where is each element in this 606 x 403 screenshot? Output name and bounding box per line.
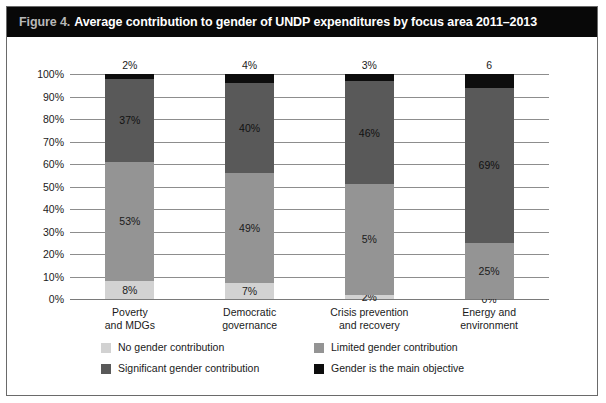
stacked-bar[interactable]: 8%53%37%2% xyxy=(105,74,154,299)
legend-swatch-icon xyxy=(314,364,324,374)
bar-segment[interactable]: 69% xyxy=(465,88,514,243)
y-axis-tick-label: 60% xyxy=(43,159,64,169)
bar-segment-label: 46% xyxy=(359,128,380,138)
y-axis-tick-label: 70% xyxy=(43,137,64,147)
bar-segment[interactable]: 2% xyxy=(345,295,394,300)
y-axis-tick-label: 10% xyxy=(43,272,64,282)
figure-number: Figure 4. xyxy=(19,15,70,29)
y-axis-tick-label: 50% xyxy=(43,182,64,192)
bar-segment[interactable] xyxy=(225,74,274,83)
bar-segment[interactable] xyxy=(345,74,394,81)
bar-segment[interactable]: 53% xyxy=(105,162,154,281)
bar-segment-label: 25% xyxy=(479,266,500,276)
bar-total-label: 3% xyxy=(345,60,394,70)
legend-item[interactable]: No gender contribution xyxy=(101,342,314,353)
legend-label: Limited gender contribution xyxy=(331,342,458,353)
bar-segment[interactable]: 5% xyxy=(345,184,394,294)
bar-group[interactable]: 0%25%69%6 xyxy=(465,74,514,299)
bar-group[interactable]: 2%5%46%3% xyxy=(345,74,394,299)
bar-total-label: 6 xyxy=(465,60,514,70)
y-axis-tick-label: 80% xyxy=(43,114,64,124)
figure-title-bar: Figure 4. Average contribution to gender… xyxy=(7,7,597,37)
legend-swatch-icon xyxy=(101,343,111,353)
bar-segment-label: 53% xyxy=(119,216,140,226)
bar-group[interactable]: 7%49%40%4% xyxy=(225,74,274,299)
bar-segment-label: 40% xyxy=(239,123,260,133)
bar-segment[interactable]: 7% xyxy=(225,283,274,299)
bar-segment[interactable]: 40% xyxy=(225,83,274,173)
y-axis-tick-label: 100% xyxy=(37,69,64,79)
y-axis-tick-label: 40% xyxy=(43,204,64,214)
bar-total-label: 2% xyxy=(105,60,154,70)
legend-item[interactable]: Gender is the main objective xyxy=(314,363,464,374)
chart-plot-area: 8%53%37%2%7%49%40%4%2%5%46%3%0%25%69%6 xyxy=(70,74,549,299)
chart-legend: No gender contributionLimited gender con… xyxy=(101,337,541,379)
bar-segment-label: 37% xyxy=(119,115,140,125)
bar-segment-label: 8% xyxy=(122,285,137,295)
y-axis-tick-label: 30% xyxy=(43,227,64,237)
bar-group[interactable]: 8%53%37%2% xyxy=(105,74,154,299)
y-axis-labels: 100%90%80%70%60%50%40%30%20%10%0% xyxy=(7,74,64,299)
figure-title: Average contribution to gender of UNDP e… xyxy=(74,15,537,29)
bar-segment-label: 5% xyxy=(362,234,377,244)
bar-segment[interactable]: 8% xyxy=(105,281,154,299)
bar-total-label: 4% xyxy=(225,60,274,70)
y-axis-tick-label: 20% xyxy=(43,249,64,259)
stacked-bar[interactable]: 2%5%46%3% xyxy=(345,74,394,299)
bar-segment[interactable] xyxy=(465,74,514,88)
legend-label: Significant gender contribution xyxy=(118,363,259,374)
legend-swatch-icon xyxy=(101,364,111,374)
stacked-bar[interactable]: 0%25%69%6 xyxy=(465,74,514,299)
bar-segment-label: 69% xyxy=(479,160,500,170)
bar-segment[interactable]: 46% xyxy=(345,81,394,185)
bar-segment-label: 7% xyxy=(242,286,257,296)
legend-swatch-icon xyxy=(314,343,324,353)
category-label-line: environment xyxy=(409,319,569,332)
bar-segment-label: 49% xyxy=(239,223,260,233)
x-axis-category-label: Energy andenvironment xyxy=(409,306,569,331)
legend-label: Gender is the main objective xyxy=(331,363,464,374)
legend-item[interactable]: Limited gender contribution xyxy=(314,342,458,353)
figure-frame: Figure 4. Average contribution to gender… xyxy=(6,6,598,396)
bar-segment[interactable]: 25% xyxy=(465,243,514,299)
category-label-line: Energy and xyxy=(409,306,569,319)
bar-segment[interactable]: 49% xyxy=(225,173,274,283)
y-axis-tick-label: 0% xyxy=(49,294,64,304)
chart-plot-wrapper: 100%90%80%70%60%50%40%30%20%10%0% 8%53%3… xyxy=(7,37,597,395)
y-axis-tick-label: 90% xyxy=(43,92,64,102)
stacked-bar[interactable]: 7%49%40%4% xyxy=(225,74,274,299)
legend-row: Significant gender contributionGender is… xyxy=(101,358,541,379)
legend-row: No gender contributionLimited gender con… xyxy=(101,337,541,358)
bar-segment[interactable] xyxy=(105,74,154,79)
legend-item[interactable]: Significant gender contribution xyxy=(101,363,314,374)
legend-label: No gender contribution xyxy=(118,342,224,353)
bar-segment[interactable]: 37% xyxy=(105,79,154,162)
x-axis-line xyxy=(70,299,549,300)
